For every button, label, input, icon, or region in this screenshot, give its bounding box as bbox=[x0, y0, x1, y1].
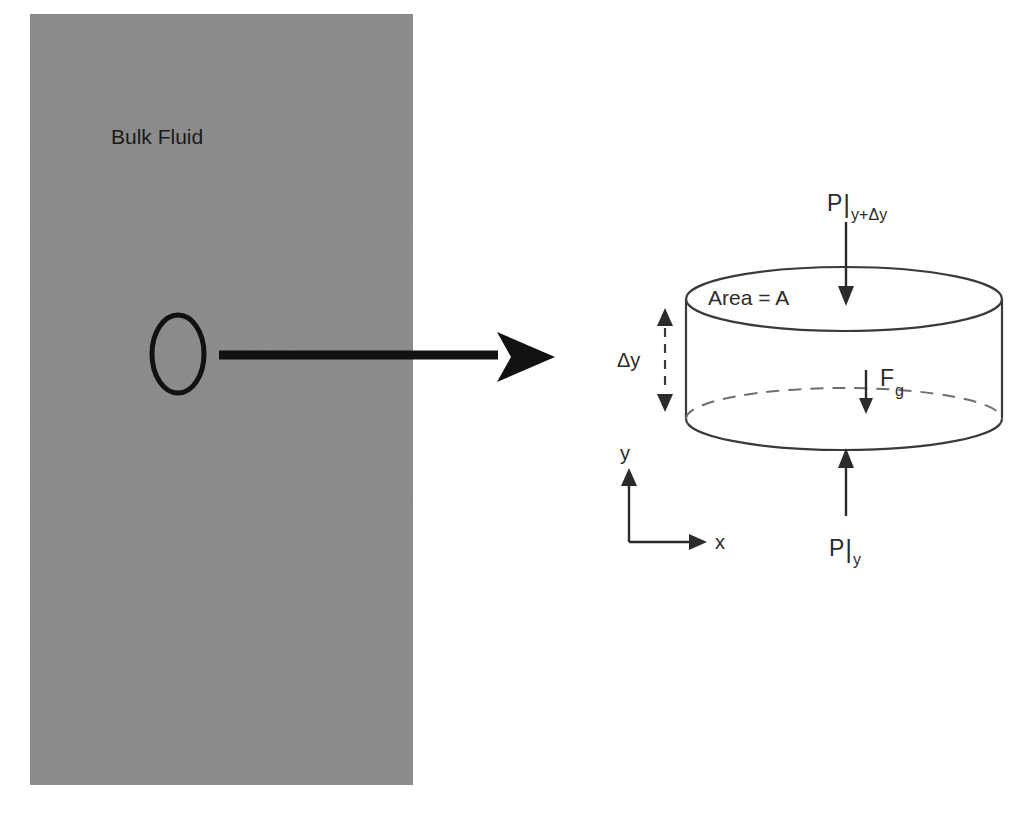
top-pressure-symbol: P bbox=[827, 190, 842, 216]
x-axis-arrow-head bbox=[689, 534, 707, 550]
area-label: Area = A bbox=[708, 286, 789, 309]
top-pressure-arrow-head bbox=[838, 286, 854, 306]
callout-arrow-head bbox=[497, 332, 555, 382]
bottom-pressure-bar: | bbox=[845, 534, 852, 564]
bottom-pressure-force: P|y bbox=[829, 448, 861, 568]
top-pressure-subscript: y+Δy bbox=[851, 206, 887, 223]
bottom-pressure-label: P|y bbox=[829, 534, 861, 568]
bulk-fluid-texture bbox=[30, 14, 413, 785]
delta-y-arrow-head-down bbox=[657, 394, 673, 412]
gravity-arrow-head bbox=[859, 398, 873, 414]
bulk-fluid-region: Bulk Fluid bbox=[30, 14, 413, 785]
gravity-subscript: g bbox=[895, 382, 904, 399]
top-pressure-label: P|y+Δy bbox=[827, 189, 887, 223]
cylinder-bottom-front-arc bbox=[686, 419, 1002, 450]
bulk-fluid-label: Bulk Fluid bbox=[111, 125, 203, 148]
gravity-symbol: F bbox=[880, 365, 894, 391]
y-axis-arrow-head bbox=[621, 468, 637, 486]
top-pressure-force: P|y+Δy bbox=[827, 189, 887, 306]
figure-root: Bulk Fluid Area = A P|y+Δy bbox=[0, 0, 1034, 813]
bottom-pressure-subscript: y bbox=[853, 551, 861, 568]
gravity-force: Fg bbox=[859, 365, 904, 414]
x-axis-label: x bbox=[715, 531, 725, 553]
delta-y-arrow-head-up bbox=[657, 308, 673, 326]
gravity-label: Fg bbox=[880, 365, 904, 399]
thickness-indicator: Δy bbox=[617, 308, 673, 412]
top-pressure-bar: | bbox=[843, 189, 850, 219]
cylinder-bottom-back-arc bbox=[686, 388, 1002, 419]
coordinate-axes: y x bbox=[620, 442, 725, 553]
delta-y-label: Δy bbox=[617, 349, 640, 371]
y-axis-label: y bbox=[620, 442, 630, 464]
diagram-canvas: Bulk Fluid Area = A P|y+Δy bbox=[0, 0, 1034, 813]
bottom-pressure-symbol: P bbox=[829, 535, 844, 561]
